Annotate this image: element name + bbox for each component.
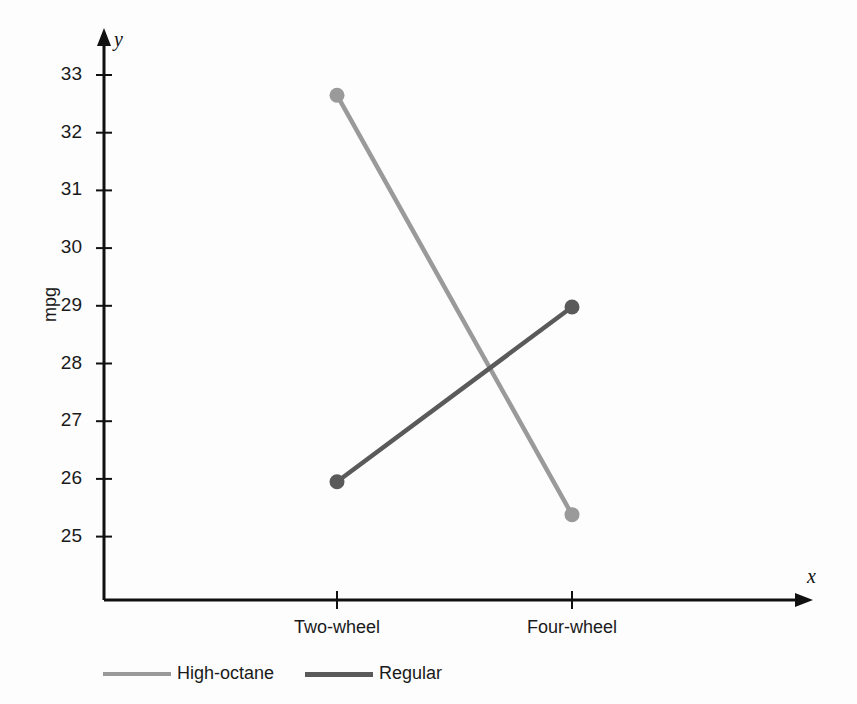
y-tick-label: 30	[48, 236, 82, 258]
legend-label: Regular	[379, 663, 442, 684]
data-point-marker[interactable]	[565, 507, 580, 522]
x-axis-variable-label: x	[807, 565, 816, 588]
data-series-group	[330, 88, 580, 522]
y-tick-label: 26	[48, 467, 82, 489]
axes-group	[97, 28, 813, 607]
data-point-marker[interactable]	[330, 474, 345, 489]
y-tick-label: 31	[48, 178, 82, 200]
legend-swatch	[103, 672, 171, 676]
legend-label: High-octane	[177, 663, 274, 684]
y-axis-title: mpg	[40, 278, 61, 330]
y-tick-label: 25	[48, 525, 82, 547]
series-line-high-octane	[337, 95, 572, 514]
y-tick-label: 32	[48, 121, 82, 143]
y-axis-arrow-icon	[97, 28, 111, 46]
legend-swatch	[305, 672, 373, 677]
y-tick-label: 33	[48, 63, 82, 85]
data-point-marker[interactable]	[330, 88, 345, 103]
y-tick-label: 28	[48, 352, 82, 374]
y-tick-label: 27	[48, 409, 82, 431]
chart-figure: 333231302928272625 mpg y x Two-wheelFour…	[0, 0, 857, 704]
y-axis-variable-label: y	[114, 28, 123, 51]
chart-plot-area	[0, 0, 857, 704]
x-axis-arrow-icon	[795, 593, 813, 607]
tick-marks-group	[96, 75, 572, 609]
x-category-label: Four-wheel	[482, 617, 662, 638]
x-category-label: Two-wheel	[247, 617, 427, 638]
data-point-marker[interactable]	[565, 299, 580, 314]
